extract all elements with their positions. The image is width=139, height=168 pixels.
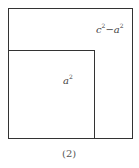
outer-region-label: c2−a2: [96, 22, 124, 35]
figure-caption: (2): [62, 148, 76, 159]
inner-square: [8, 50, 95, 139]
inner-square-label: a2: [63, 73, 73, 86]
